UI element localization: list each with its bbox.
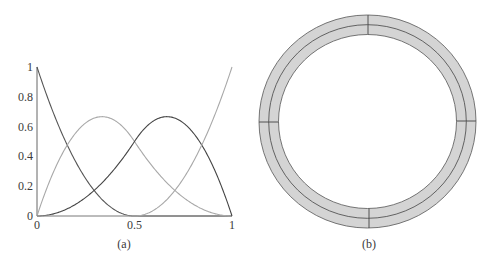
panel-a-plot: 00.20.40.60.81 00.51 (a) (18, 60, 235, 251)
ring-fill (259, 15, 476, 228)
curve-n2 (37, 117, 232, 216)
y-tick-label: 0.4 (18, 149, 33, 163)
x-tick-label: 0.5 (127, 218, 142, 232)
x-tick-labels: 00.51 (34, 218, 235, 232)
panel-b-ring: (b) (259, 15, 476, 251)
curve-n1 (37, 117, 232, 216)
panel-b-caption: (b) (362, 237, 376, 251)
panel-a-caption: (a) (117, 237, 130, 251)
x-tick-label: 0 (34, 218, 40, 232)
y-tick-label: 0.8 (18, 90, 33, 104)
basis-curves (37, 67, 232, 216)
x-tick-label: 1 (229, 218, 235, 232)
y-tick-labels: 00.20.40.60.81 (18, 60, 33, 223)
y-tick-label: 0 (27, 209, 33, 223)
figure: 00.20.40.60.81 00.51 (a) (b) (0, 0, 493, 262)
y-tick-label: 1 (27, 60, 33, 74)
ring-inner-edge (279, 35, 457, 209)
y-tick-label: 0.2 (18, 179, 33, 193)
y-tick-label: 0.6 (18, 120, 33, 134)
